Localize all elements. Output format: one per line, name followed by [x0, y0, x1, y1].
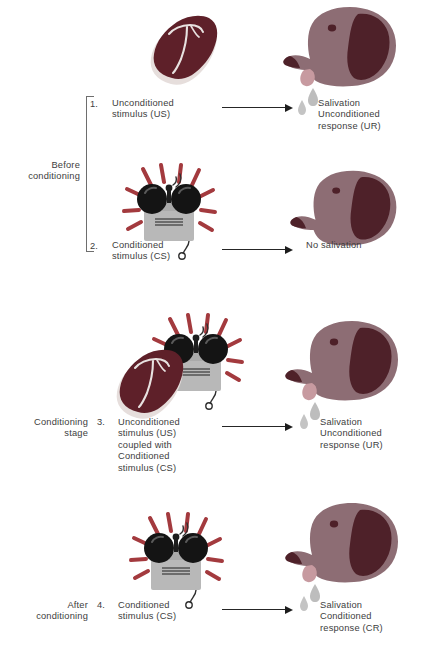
stimulus-label-panel-3: Unconditioned stimulus (US) coupled with… [118, 417, 218, 474]
stimulus-label-panel-2: Conditioned stimulus (CS) [112, 240, 212, 263]
dog-salivating [272, 318, 402, 420]
arrow-panel-3 [222, 422, 294, 431]
dog-salivating [272, 500, 402, 602]
arrow-panel-2 [222, 245, 294, 254]
arrow-panel-4 [222, 605, 294, 614]
stage-label-before-conditioning: Before conditioning [8, 160, 80, 183]
step-number-2: 2. [90, 241, 98, 251]
response-label-panel-2: No salivation [306, 240, 416, 251]
before-conditioning-bracket [86, 96, 94, 252]
step-number-3: 3. [97, 417, 105, 427]
meat-icon [113, 348, 195, 424]
step-number-1: 1. [90, 99, 98, 109]
response-label-panel-3: Salivation Unconditioned response (UR) [320, 417, 426, 451]
stage-label-after-conditioning: After conditioning [8, 600, 88, 623]
response-label-panel-4: Salivation Conditioned response (CR) [320, 600, 426, 634]
classical-conditioning-figure: Before conditioning Conditioning stage A… [0, 0, 427, 654]
stimulus-label-panel-1: Unconditioned stimulus (US) [112, 98, 212, 121]
stage-label-conditioning: Conditioning stage [8, 417, 88, 440]
stimulus-label-panel-4: Conditioned stimulus (CS) [118, 600, 218, 623]
arrow-panel-1 [222, 103, 294, 112]
dog-salivating [270, 4, 400, 106]
step-number-4: 4. [97, 600, 105, 610]
response-label-panel-1: Salivation Unconditioned response (UR) [318, 98, 424, 132]
bell-icon [120, 512, 230, 612]
meat-icon [147, 14, 229, 90]
